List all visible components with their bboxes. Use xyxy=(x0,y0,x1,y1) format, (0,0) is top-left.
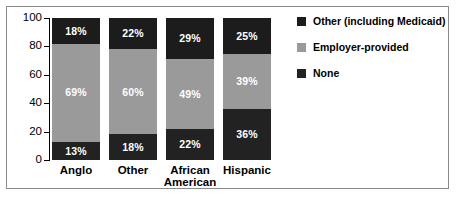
bar-other[interactable]: 22%60%18% xyxy=(109,18,157,160)
bar-african-american[interactable]: 29%49%22% xyxy=(166,18,214,160)
y-axis-tick-label: 0 xyxy=(2,154,42,166)
bar-segment: 39% xyxy=(223,54,271,109)
bar-segment-label: 18% xyxy=(122,142,143,153)
y-axis-tick-label: 60 xyxy=(2,69,42,81)
plot-area: 18%69%13%22%60%18%29%49%22%25%39%36% xyxy=(49,18,285,160)
y-axis-tick-label: 100 xyxy=(2,12,42,24)
y-axis-tick-label: 40 xyxy=(2,97,42,109)
bar-segment-label: 69% xyxy=(65,87,86,98)
bar-segment: 36% xyxy=(223,109,271,160)
legend-swatch-icon xyxy=(297,69,306,78)
bar-segment-label: 60% xyxy=(122,87,143,98)
bar-segment: 18% xyxy=(109,134,157,160)
bar-hispanic[interactable]: 25%39%36% xyxy=(223,18,271,160)
chart-figure: 020406080100 18%69%13%22%60%18%29%49%22%… xyxy=(0,0,457,206)
bar-segment-label: 36% xyxy=(236,129,257,140)
bar-segment-label: 13% xyxy=(65,146,86,157)
legend-label: None xyxy=(313,68,339,79)
bar-segment: 13% xyxy=(52,142,100,160)
y-axis-tick-label: 80 xyxy=(2,40,42,52)
bar-segment-label: 25% xyxy=(236,31,257,42)
bar-segment-label: 22% xyxy=(179,139,200,150)
bar-segment: 69% xyxy=(52,44,100,142)
legend-swatch-icon xyxy=(297,17,306,26)
bar-segment: 60% xyxy=(109,49,157,134)
bar-segment: 25% xyxy=(223,18,271,54)
bar-anglo[interactable]: 18%69%13% xyxy=(52,18,100,160)
chart-legend: Other (including Medicaid)Employer-provi… xyxy=(297,16,442,94)
bar-segment-label: 22% xyxy=(122,28,143,39)
bar-segment: 22% xyxy=(166,129,214,160)
bar-segment-label: 39% xyxy=(236,76,257,87)
bar-segment: 18% xyxy=(52,18,100,44)
legend-label: Employer-provided xyxy=(313,42,409,53)
legend-item[interactable]: Other (including Medicaid) xyxy=(297,16,442,28)
legend-swatch-icon xyxy=(297,43,306,52)
y-axis-tick xyxy=(44,160,49,161)
bar-segment-label: 29% xyxy=(179,33,200,44)
bar-segment: 22% xyxy=(109,18,157,49)
bar-segment-label: 49% xyxy=(179,89,200,100)
bar-segment: 29% xyxy=(166,18,214,59)
x-axis-category-label: Hispanic xyxy=(212,164,282,176)
bar-segment-label: 18% xyxy=(65,26,86,37)
legend-item[interactable]: None xyxy=(297,68,442,80)
y-axis-tick-label: 20 xyxy=(2,126,42,138)
bar-segment: 49% xyxy=(166,59,214,129)
legend-item[interactable]: Employer-provided xyxy=(297,42,442,54)
legend-label: Other (including Medicaid) xyxy=(313,16,445,27)
